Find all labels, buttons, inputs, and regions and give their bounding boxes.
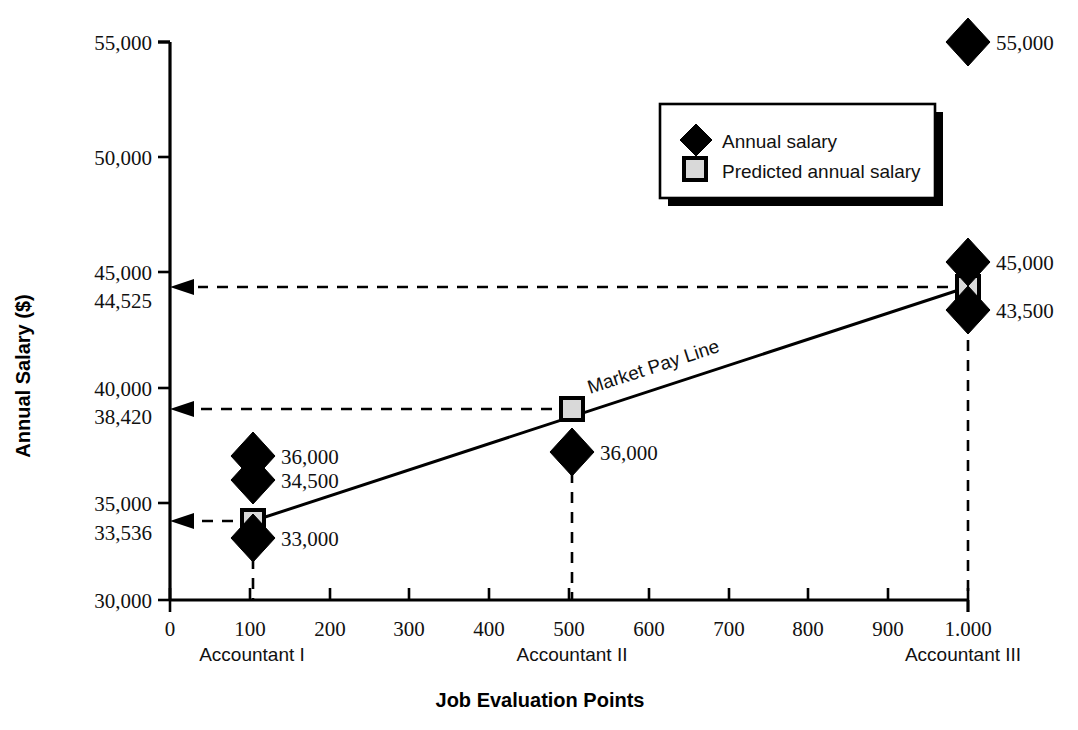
annual-salary-markers: [231, 18, 990, 562]
x-label-800: 800: [792, 617, 824, 641]
y-label-44525: 44,525: [94, 289, 152, 313]
y-axis-tick-labels: 55,000 50,000 45,000 44,525 40,000 38,42…: [94, 31, 152, 613]
x-label-100: 100: [234, 617, 266, 641]
point-label-45000-accountant-iii: 45,000: [996, 251, 1054, 275]
y-label-55000: 55,000: [94, 31, 152, 55]
chart-canvas: 55,000 50,000 45,000 44,525 40,000 38,42…: [0, 0, 1078, 730]
ref-arrow-44525: [170, 279, 194, 295]
y-label-33536: 33,536: [94, 521, 152, 545]
point-label-34500-accountant-i: 34,500: [281, 469, 339, 493]
y-label-40000: 40,000: [94, 377, 152, 401]
x-label-700: 700: [713, 617, 745, 641]
point-label-55000-accountant-iii: 55,000: [996, 31, 1054, 55]
x-label-200: 200: [314, 617, 346, 641]
point-label-43500-accountant-iii: 43,500: [996, 299, 1054, 323]
x-axis-title: Job Evaluation Points: [436, 689, 645, 711]
point-label-33000-accountant-i: 33,000: [281, 527, 339, 551]
y-axis-title: Annual Salary ($): [12, 294, 34, 457]
market-pay-line: [253, 287, 968, 521]
y-label-38420: 38,420: [94, 405, 152, 429]
x-label-1000: 1.000: [944, 617, 991, 641]
job-title-labels: Accountant I Accountant II Accountant II…: [199, 644, 1021, 665]
x-label-300: 300: [393, 617, 425, 641]
legend: Annual salary Predicted annual salary: [660, 104, 943, 206]
x-label-600: 600: [633, 617, 665, 641]
x-label-500: 500: [553, 617, 585, 641]
x-label-400: 400: [473, 617, 505, 641]
y-label-30000: 30,000: [94, 589, 152, 613]
x-label-900: 900: [872, 617, 904, 641]
legend-label-predicted-annual-salary: Predicted annual salary: [722, 161, 921, 182]
ref-arrow-38420: [170, 401, 194, 417]
legend-square-icon: [684, 158, 706, 180]
legend-label-annual-salary: Annual salary: [722, 131, 838, 152]
x-label-0: 0: [165, 617, 176, 641]
salary-marker-36000-accountant-ii[interactable]: [550, 428, 594, 476]
salary-marker-33000-accountant-i[interactable]: [231, 514, 275, 562]
y-label-35000: 35,000: [94, 492, 152, 516]
ref-arrow-33536: [170, 513, 194, 529]
y-label-50000: 50,000: [94, 146, 152, 170]
x-axis-tick-labels: 0 100 200 300 400 500 600 700 800 900 1.…: [165, 617, 992, 641]
job-label-accountant-iii: Accountant III: [905, 644, 1021, 665]
y-label-45000: 45,000: [94, 261, 152, 285]
point-label-36000-accountant-ii: 36,000: [600, 441, 658, 465]
salary-marker-45000-accountant-iii[interactable]: [946, 238, 990, 286]
job-label-accountant-ii: Accountant II: [517, 644, 628, 665]
pay-line-scatter-chart: 55,000 50,000 45,000 44,525 40,000 38,42…: [0, 0, 1078, 730]
job-label-accountant-i: Accountant I: [199, 644, 305, 665]
point-label-36000-accountant-i: 36,000: [281, 445, 339, 469]
predicted-marker-38420[interactable]: [561, 398, 583, 420]
salary-marker-55000-accountant-iii[interactable]: [946, 18, 990, 66]
